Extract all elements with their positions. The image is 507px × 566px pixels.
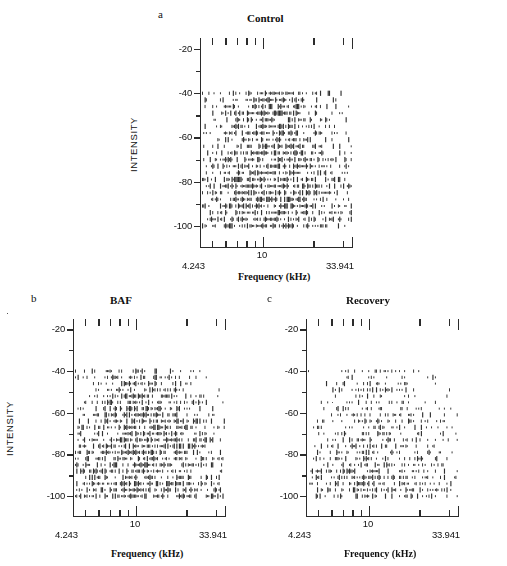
y-axis-minor-tick: [69, 350, 74, 351]
x-axis-tick-top: [246, 38, 247, 45]
y-axis-tick: [67, 454, 74, 455]
plot-area-baf[interactable]: [73, 319, 225, 517]
x-axis-tick-top: [331, 319, 332, 326]
x-axis-min-label: 4.243: [182, 260, 205, 271]
x-axis-tick-top: [110, 319, 111, 326]
y-axis-tick: [194, 49, 201, 50]
y-axis-tick: [194, 93, 201, 94]
raster-canvas-baf: [74, 319, 225, 517]
x-axis-tick: [331, 510, 332, 517]
x-axis-tick: [419, 510, 420, 517]
x-axis-tick: [369, 506, 370, 517]
x-axis-tick: [458, 506, 459, 517]
x-axis-mid-label: 10: [130, 518, 141, 529]
y-axis-tick: [67, 371, 74, 372]
figure-root: a Control INTENSITY Frequency (kHz) -20-…: [0, 0, 507, 566]
y-axis-tick-label: -60: [29, 407, 65, 418]
x-axis-tick-top: [225, 38, 226, 45]
x-axis-tick: [263, 237, 264, 248]
x-axis-tick: [186, 510, 187, 517]
x-axis-tick-top: [458, 319, 459, 330]
x-axis-min-label: 4.243: [288, 529, 311, 540]
y-axis-minor-tick: [196, 71, 201, 72]
y-axis-minor-tick: [302, 392, 307, 393]
x-axis-tick: [85, 510, 86, 517]
x-axis-max-label: 33.941: [432, 529, 460, 540]
panel-control: a Control INTENSITY Frequency (kHz) -20-…: [0, 0, 507, 290]
x-axis-tick-top: [85, 319, 86, 326]
y-axis-minor-tick: [196, 115, 201, 116]
x-axis-tick-top: [306, 319, 307, 330]
panel-recovery: c Recovery Frequency (kHz) -20-40-60-80-…: [253, 288, 507, 566]
x-axis-tick-top: [352, 38, 353, 49]
x-axis-tick-top: [419, 319, 420, 326]
raster-canvas-recovery: [307, 319, 458, 517]
y-axis-minor-tick: [196, 160, 201, 161]
panel-title-control: Control: [247, 12, 283, 24]
y-axis-minor-tick: [302, 434, 307, 435]
x-axis-tick-top: [128, 319, 129, 326]
y-axis-tick: [300, 329, 307, 330]
y-axis-tick-label: -40: [29, 365, 65, 376]
panel-letter-b: b: [31, 292, 37, 304]
x-axis-tick-top: [186, 319, 187, 326]
y-axis-tick: [67, 413, 74, 414]
x-axis-tick-top: [119, 319, 120, 326]
x-axis-tick-top: [200, 38, 201, 49]
y-axis-tick-label: -60: [262, 407, 298, 418]
y-axis-tick-label: -80: [156, 176, 192, 187]
x-axis-tick: [352, 510, 353, 517]
x-axis-tick: [73, 506, 74, 517]
x-axis-tick: [361, 510, 362, 517]
x-axis-tick-top: [136, 319, 137, 330]
y-axis-tick: [67, 329, 74, 330]
y-axis-tick-label: -40: [262, 365, 298, 376]
x-axis-tick: [216, 510, 217, 517]
x-axis-tick-top: [237, 38, 238, 45]
x-axis-tick-top: [318, 319, 319, 326]
y-axis-minor-tick: [69, 434, 74, 435]
x-axis-tick: [343, 510, 344, 517]
y-axis-tick: [194, 226, 201, 227]
x-axis-tick: [200, 237, 201, 248]
x-axis-tick: [110, 510, 111, 517]
x-axis-mid-label: 10: [257, 249, 268, 260]
x-axis-tick: [313, 241, 314, 248]
x-axis-mid-label: 10: [363, 518, 374, 529]
panel-baf: b BAF INTENSITY Frequency (kHz) -20-40-6…: [0, 288, 253, 566]
x-axis-tick-top: [73, 319, 74, 330]
y-axis-tick: [300, 371, 307, 372]
x-axis-tick-top: [255, 38, 256, 45]
plot-area-control[interactable]: [200, 38, 352, 248]
x-axis-tick: [255, 241, 256, 248]
y-axis-minor-tick: [196, 204, 201, 205]
x-axis-tick-top: [343, 319, 344, 326]
axis-title-x-recovery: Frequency (kHz): [344, 548, 416, 559]
y-axis-tick: [194, 182, 201, 183]
x-axis-tick-top: [449, 319, 450, 326]
x-axis-tick: [246, 241, 247, 248]
x-axis-tick: [449, 510, 450, 517]
axis-title-y-baf: INTENSITY: [4, 401, 15, 456]
y-axis-tick: [67, 496, 74, 497]
x-axis-tick: [225, 506, 226, 517]
raster-canvas-control: [201, 38, 352, 248]
x-axis-tick: [318, 510, 319, 517]
y-axis-tick-label: -40: [156, 87, 192, 98]
y-axis-tick-label: -20: [262, 323, 298, 334]
y-axis-minor-tick: [302, 350, 307, 351]
x-axis-tick: [136, 506, 137, 517]
y-axis-tick: [194, 137, 201, 138]
x-axis-tick: [343, 241, 344, 248]
x-axis-tick-top: [352, 319, 353, 326]
x-axis-tick-top: [361, 319, 362, 326]
axis-title-x-baf: Frequency (kHz): [111, 548, 183, 559]
plot-area-recovery[interactable]: [306, 319, 458, 517]
scan-speck: [7, 313, 8, 314]
y-axis-tick: [300, 454, 307, 455]
y-axis-tick-label: -80: [29, 448, 65, 459]
x-axis-min-label: 4.243: [55, 529, 78, 540]
x-axis-tick-top: [369, 319, 370, 330]
y-axis-tick-label: -80: [262, 448, 298, 459]
axis-title-x-control: Frequency (kHz): [238, 271, 310, 282]
